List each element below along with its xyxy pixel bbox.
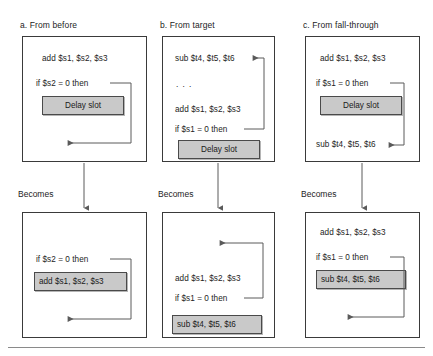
panel-c-becomes-label: Becomes (301, 189, 336, 199)
panel-c-after-highlighted-instruction: sub $t4, $t5, $t6 (316, 270, 406, 289)
panel-a-before-delay-slot: Delay slot (42, 96, 124, 115)
panel-a-after-line-1: if $s2 = 0 then (36, 255, 88, 264)
panel-b-label: b. From target (160, 20, 215, 30)
panel-c-before-line-3: sub $t4, $t5, $t6 (316, 140, 376, 149)
panel-c-label: c. From fall-through (303, 20, 379, 30)
panel-c-before-line-1: add $s1, $s2, $s3 (320, 54, 386, 63)
panel-a-becomes-label: Becomes (18, 189, 53, 199)
bottom-divider-rule (8, 347, 425, 348)
panel-b-before-ellipsis: . . . (176, 80, 192, 89)
panel-b-after-highlighted-instruction: sub $t4, $t5, $t6 (172, 315, 262, 334)
panel-b-after-line-2: if $s1 = 0 then (175, 294, 227, 303)
panel-b-becomes-label: Becomes (158, 189, 193, 199)
panel-c-before-line-2: if $s1 = 0 then (316, 79, 368, 88)
panel-b-before-line-4: if $s1 = 0 then (175, 125, 227, 134)
panel-b-before-line-3: add $s1, $s2, $s3 (175, 105, 241, 114)
panel-c-after-line-2: if $s1 = 0 then (316, 253, 368, 262)
panel-b-before-line-1: sub $t4, $t5, $t6 (175, 54, 235, 63)
panel-a-label: a. From before (20, 20, 77, 30)
panel-c-before-delay-slot: Delay slot (320, 96, 402, 115)
panel-b-after-line-1: add $s1, $s2, $s3 (175, 274, 241, 283)
delayed-branch-scheduling-figure: a. From before add $s1, $s2, $s3 if $s2 … (0, 0, 433, 356)
panel-a-before-line-2: if $s2 = 0 then (36, 79, 88, 88)
panel-a-before-line-1: add $s1, $s2, $s3 (42, 54, 108, 63)
panel-c-after-line-1: add $s1, $s2, $s3 (320, 228, 386, 237)
panel-b-before-delay-slot: Delay slot (178, 140, 260, 159)
panel-a-after-highlighted-instruction: add $s1, $s2, $s3 (34, 272, 127, 291)
